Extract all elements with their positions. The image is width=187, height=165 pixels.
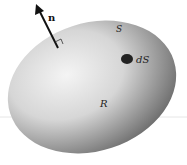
diagram-canvas: n S dS R bbox=[0, 0, 187, 165]
region-body bbox=[0, 0, 187, 165]
arrow-head-icon bbox=[35, 4, 44, 15]
region-label: R bbox=[99, 98, 108, 109]
surface-label: S bbox=[116, 24, 122, 34]
surface-element-label: dS bbox=[136, 54, 149, 65]
surface-element bbox=[121, 54, 133, 64]
normal-label: n bbox=[48, 12, 56, 23]
